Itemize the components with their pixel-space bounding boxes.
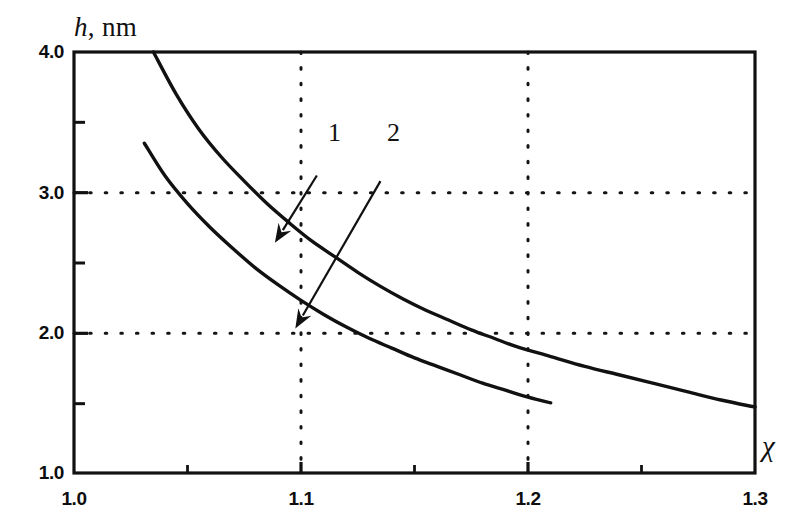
xtick-label-1.3: 1.3 [720, 488, 790, 510]
curve-series-1 [153, 52, 755, 407]
chart-canvas [0, 0, 803, 530]
curve-series-2 [144, 143, 550, 403]
curve-label-1: 1 [328, 118, 341, 148]
xtick-label-1.0: 1.0 [39, 488, 109, 510]
y-axis-title-symbol: h [74, 12, 88, 42]
annotation-arrow-1 [275, 175, 317, 242]
x-axis-title: χ [762, 430, 775, 463]
axes-frame [74, 52, 755, 473]
axis-ticks [74, 122, 642, 473]
curve-label-2: 2 [387, 118, 400, 148]
annotation-arrow-2-head [295, 308, 311, 328]
y-axis-title: h, nm [74, 12, 137, 43]
plot-frame [74, 52, 755, 473]
ytick-label-1.0: 1.0 [6, 462, 64, 484]
annotation-arrow-1-head [275, 223, 291, 243]
annotation-arrow-2 [295, 181, 380, 328]
ytick-label-4.0: 4.0 [6, 41, 64, 63]
xtick-label-1.2: 1.2 [493, 488, 563, 510]
gridlines [74, 52, 755, 473]
annotation-arrow-2-line [303, 181, 381, 315]
ytick-label-3.0: 3.0 [6, 182, 64, 204]
xtick-label-1.1: 1.1 [266, 488, 336, 510]
data-curves [144, 52, 755, 407]
figure-container: h, nm χ 4.0 3.0 2.0 1.0 1.0 1.1 1.2 1.3 … [0, 0, 803, 530]
y-axis-title-units: , nm [88, 12, 137, 42]
annotation-arrow-1-line [283, 175, 317, 230]
ytick-label-2.0: 2.0 [6, 322, 64, 344]
